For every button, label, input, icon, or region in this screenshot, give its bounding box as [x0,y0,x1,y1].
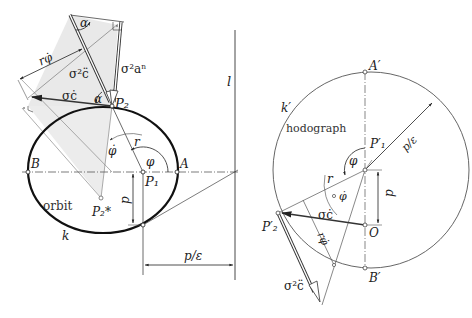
label-P2-star: P₂* [91,205,111,219]
line-P2p-P1p [278,170,365,213]
label-P1: P₁ [144,174,159,189]
label-P2-prime: P′₂ [261,220,278,234]
label-hodo-p-over-eps: p/ε [399,133,420,154]
label-O: O [369,226,379,240]
point-A [175,170,179,174]
label-p: p [118,196,132,204]
label-A-prime: A′ [368,59,381,73]
label-alpha-top: α [80,16,88,30]
hodograph-diagram: A′ k′ hodograph P′₁ p/ε φ r φ̇ p P′₂ σċ … [261,59,469,305]
label-hodo-phi-dot: φ̇ [339,190,347,203]
label-p-over-eps: p/ε [184,249,202,263]
label-sigma2-cddot: σ²c̈ [69,67,89,81]
label-P2: P₂ [114,96,129,111]
right-angle-dot-left [23,107,25,109]
label-hodo-r-phi-dot: rφ̇ [314,230,331,248]
label-B: B [30,157,40,171]
label-hodo-phi: φ [349,154,358,168]
label-hodo-sigma-cdot: σċ [318,208,333,222]
point-P2-star [99,196,103,200]
orbit-diagram: α rφ̇ σ²c̈ σ²aⁿ σċ α P₂ φ̇ r φ B A P₁ p … [18,15,238,280]
label-alpha-p2: α [94,92,102,106]
point-B [26,170,30,174]
label-hodo-r: r [327,172,334,186]
point-A-prime [363,70,367,74]
point-P1-prime [363,168,367,172]
label-hodo-p: p [382,189,396,197]
label-orbit: orbit [43,199,72,213]
point-P2 [110,104,114,108]
right-angle-dot-top [116,25,118,27]
point-circle-intersection [332,263,335,266]
label-B-prime: B′ [368,271,381,285]
point-latus [141,223,145,227]
shaded-triangle-lower [28,106,112,198]
label-hodograph: hodograph [286,122,346,135]
orbit-hodograph-figure: α rφ̇ σ²c̈ σ²aⁿ σċ α P₂ φ̇ r φ B A P₁ p … [0,0,472,318]
label-phi-dot: φ̇ [108,144,117,158]
label-hodo-sigma2-cddot: σ²c̈ [284,279,304,293]
label-P1-prime: P′₁ [369,137,386,151]
hodograph-sigma2-cddot-arrowhead [309,281,320,302]
point-phi-dot [332,194,335,197]
label-l: l [227,74,231,89]
point-P2-prime [276,211,280,215]
label-phi: φ [146,155,155,169]
label-sigma2-an: σ²aⁿ [121,62,146,76]
dim-extension [18,80,28,100]
label-k: k [62,229,69,243]
point-O [363,223,367,227]
point-B-prime [363,266,367,270]
label-sigma-cdot: σċ [62,89,77,103]
label-A: A [179,157,189,171]
label-k-prime: k′ [281,101,291,115]
